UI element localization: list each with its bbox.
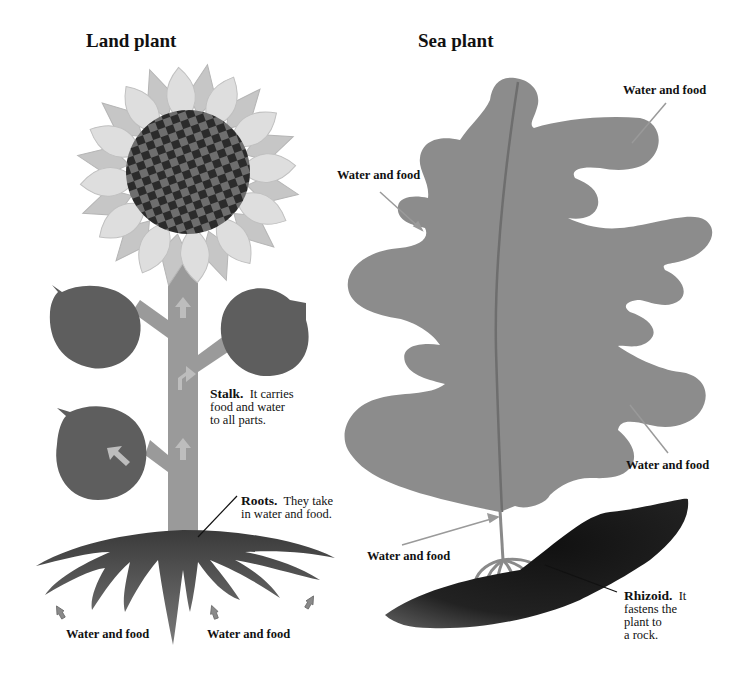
arrow-icon (303, 594, 317, 610)
arrow-icon (53, 604, 67, 620)
stalk-description: Stalk. It carries food and water to all … (210, 387, 294, 427)
land-water-label-right: Water and food (207, 627, 290, 642)
land-water-label-left: Water and food (66, 627, 149, 642)
stalk-term: Stalk. (210, 386, 243, 401)
roots-term: Roots. (241, 493, 277, 508)
roots-pointer-line (198, 496, 237, 537)
diagram-land-vs-sea-plant: Land plant Sea plant Stalk. It carries f… (0, 0, 729, 674)
rhizoid-term: Rhizoid. (624, 588, 672, 603)
rhizoid-description: Rhizoid. It fastens the plant to a rock. (624, 589, 686, 642)
sea-water-label-top-right: Water and food (623, 83, 706, 98)
sea-water-label-bottom-right: Water and food (626, 458, 709, 473)
sea-water-label-top-left: Water and food (337, 168, 420, 183)
plant-illustration (0, 0, 729, 674)
sunflower-center (126, 110, 250, 234)
sea-water-label-holdfast: Water and food (367, 549, 450, 564)
roots-description: Roots. They take in water and food. (241, 494, 333, 521)
land-plant-title: Land plant (86, 30, 176, 52)
seaweed-frond (345, 78, 713, 512)
sea-plant-title: Sea plant (418, 30, 494, 52)
arrow-icon (208, 604, 220, 620)
